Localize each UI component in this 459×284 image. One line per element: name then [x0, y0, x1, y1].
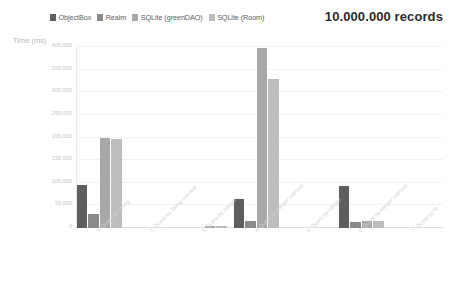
legend-swatch-icon — [132, 14, 138, 21]
bar — [339, 186, 350, 228]
bar-group — [128, 47, 180, 228]
y-axis-tick-label: 200,000 — [52, 134, 72, 140]
y-axis-tick-label: 0 — [69, 224, 72, 230]
y-axis-tick-label: 350,000 — [52, 66, 72, 72]
y-axis-tick-label: 100,000 — [52, 179, 72, 185]
y-axis-tick-label: 150,000 — [52, 156, 72, 162]
bar — [77, 185, 88, 228]
bar-group — [391, 47, 443, 228]
legend-swatch-icon — [97, 14, 103, 21]
page-title: 10.000.000 records — [325, 10, 443, 24]
legend-item-label: Realm — [106, 14, 127, 21]
chart-legend: ObjectBoxRealmSQLite (greenDAO)SQLite (R… — [50, 14, 264, 21]
legend-item: SQLite (greenDAO) — [132, 14, 202, 21]
bar-group — [286, 47, 338, 228]
bar — [216, 226, 227, 228]
y-axis-title: Time (ms) — [13, 37, 46, 45]
y-axis-tick-label: 250,000 — [52, 111, 72, 117]
bar-group — [233, 47, 285, 228]
legend-swatch-icon — [50, 14, 56, 21]
bar-group — [181, 47, 233, 228]
y-axis-tick-label: 400,000 — [52, 43, 72, 49]
legend-item: ObjectBox — [50, 14, 91, 21]
bar-group — [338, 47, 390, 228]
y-axis-tick-label: 300,000 — [52, 88, 72, 94]
y-axis-tick-label: 50,000 — [55, 202, 72, 208]
x-axis-labels: 1. Query by String2. Query by String ind… — [76, 230, 443, 282]
legend-item: SQLite (Room) — [209, 14, 265, 21]
legend-swatch-icon — [209, 14, 215, 21]
legend-item: Realm — [97, 14, 126, 21]
legend-item-label: ObjectBox — [59, 14, 92, 21]
bar-group — [76, 47, 128, 228]
legend-item-label: SQLite (Room) — [217, 14, 264, 21]
bar-chart: ObjectBoxRealmSQLite (greenDAO)SQLite (R… — [0, 0, 459, 284]
bar — [373, 221, 384, 228]
legend-item-label: SQLite (greenDAO) — [141, 14, 203, 21]
bar — [257, 48, 268, 228]
